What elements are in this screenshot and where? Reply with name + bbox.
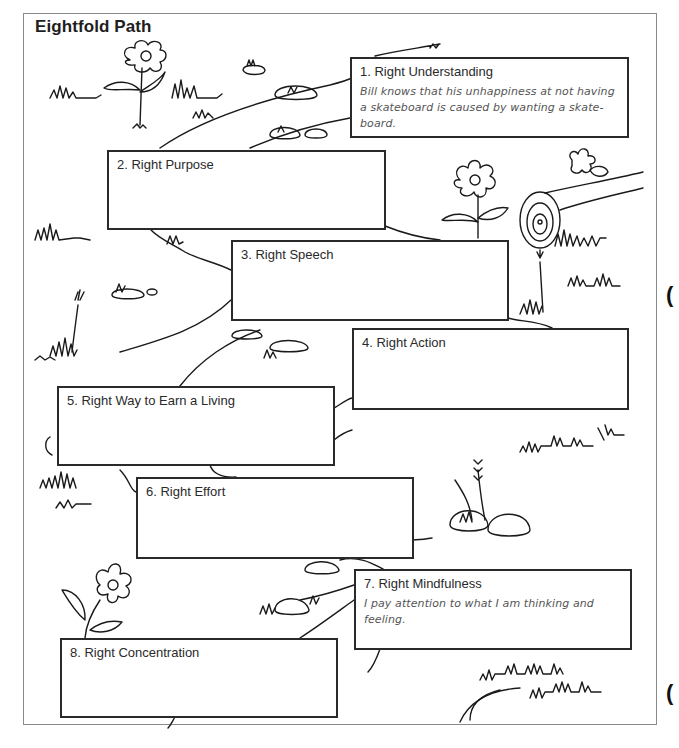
- flower-illustration-2: [442, 161, 508, 239]
- step-label: 6. Right Effort: [146, 484, 404, 500]
- step-label: 8. Right Concentration: [70, 645, 328, 661]
- step-box-right-concentration[interactable]: 8. Right Concentration: [60, 638, 338, 718]
- binder-hole-mark: (: [666, 282, 673, 308]
- step-label: 7. Right Mindfulness: [364, 576, 622, 592]
- step-example-text: Bill knows that his unhappiness at not h…: [360, 84, 619, 132]
- step-label: 2. Right Purpose: [117, 157, 376, 173]
- step-box-right-way-to-earn-a-living[interactable]: 5. Right Way to Earn a Living: [57, 386, 335, 466]
- step-label: 1. Right Understanding: [360, 64, 619, 80]
- step-box-right-purpose[interactable]: 2. Right Purpose: [107, 150, 386, 230]
- binder-hole-mark: (: [666, 680, 673, 706]
- step-label: 5. Right Way to Earn a Living: [67, 393, 325, 409]
- step-box-right-mindfulness[interactable]: 7. Right Mindfulness I pay attention to …: [354, 569, 632, 650]
- step-box-right-action[interactable]: 4. Right Action: [352, 328, 629, 410]
- step-box-right-speech[interactable]: 3. Right Speech: [231, 240, 509, 321]
- step-example-text: I pay attention to what I am thinking an…: [364, 596, 622, 628]
- flower-illustration-3: [62, 564, 131, 638]
- step-box-right-effort[interactable]: 6. Right Effort: [136, 477, 414, 559]
- step-box-right-understanding[interactable]: 1. Right Understanding Bill knows that h…: [350, 57, 629, 138]
- step-label: 4. Right Action: [362, 335, 619, 351]
- step-label: 3. Right Speech: [241, 247, 499, 263]
- log-illustration: [520, 149, 643, 248]
- flower-illustration: [104, 41, 166, 128]
